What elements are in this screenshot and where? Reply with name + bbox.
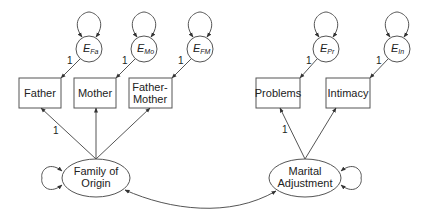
- error-variance-loop-in: [385, 12, 408, 37]
- error-label-fm: EFM: [193, 42, 211, 55]
- loading-arrow-intimacy: [305, 108, 336, 159]
- error-loading-label-fm: 1: [178, 55, 184, 66]
- covariance-arrow: [125, 190, 276, 208]
- error-loading-label-mo: 1: [122, 55, 128, 66]
- error-variance-loop-pr: [314, 12, 337, 37]
- latent-label-marital-line1: Marital: [288, 165, 321, 177]
- indicator-label-father-mother-line1: Father-: [132, 81, 168, 93]
- indicator-label-father-mother-line2: Mother: [133, 93, 168, 105]
- error-loading-label-fa: 1: [67, 55, 73, 66]
- latent-label-family-line2: Origin: [81, 177, 110, 189]
- error-variance-loop-fa: [77, 12, 100, 37]
- error-label-fa: EFa: [83, 42, 99, 55]
- error-loading-label-pr: 1: [306, 55, 312, 66]
- error-variance-loop-fm: [188, 12, 211, 37]
- loading-arrow-father: [41, 108, 96, 159]
- fixed-loading-label-family: 1: [53, 125, 59, 136]
- loading-arrow-father-mother: [96, 108, 150, 159]
- latent-variance-loop-family: [42, 167, 62, 190]
- latent-label-family-line1: Family of: [74, 165, 120, 177]
- error-variance-loop-mo: [132, 12, 155, 37]
- indicator-label-intimacy: Intimacy: [328, 87, 369, 99]
- indicator-label-mother: Mother: [78, 87, 113, 99]
- sem-diagram: EFa EMo EFM EPr EIn 1 1 1 1 1 Father Mot…: [0, 0, 431, 220]
- error-label-in: EIn: [391, 42, 404, 55]
- error-loading-label-in: 1: [376, 55, 382, 66]
- error-label-pr: EPr: [320, 42, 335, 55]
- indicator-label-father: Father: [24, 87, 56, 99]
- latent-variance-loop-marital: [341, 167, 361, 190]
- latent-label-marital-line2: Adjustment: [277, 177, 332, 189]
- indicator-label-problems: Problems: [255, 87, 302, 99]
- fixed-loading-label-marital: 1: [282, 124, 288, 135]
- error-label-mo: EMo: [137, 42, 154, 55]
